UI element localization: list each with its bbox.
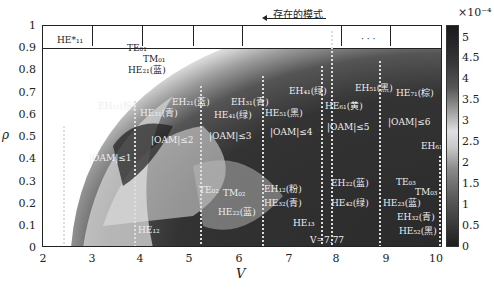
y-tick: 0.6 [10,109,36,120]
mode-label-he71: HE₇₁(棕) [396,88,434,98]
x-tick: 4 [130,252,150,265]
mode-label-te02: TE₀₂ [199,185,219,195]
y-tick: 0.1 [10,220,36,231]
colorbar-tick: 3.5 [462,94,480,105]
grid-line [242,26,243,46]
ellipsis: · · · [361,34,375,44]
mode-label-eh51: EH₅₁(黑) [355,83,393,93]
mode-label-eh32: EH₃₂(青) [397,212,435,222]
colorbar-tick: 0.5 [462,220,480,231]
mode-label-he22: HE₂₂(蓝) [218,207,256,217]
cutoff-line [331,31,333,246]
mode-label-te01: TE₀₁ [127,43,147,53]
cutoff-line [200,86,202,246]
oam-label-2: |OAM|≤2 [151,135,193,145]
mode-label-eh61: EH₆₁ [421,141,442,151]
arrow-icon [266,18,326,19]
y-tick: 0.3 [10,176,36,187]
y-axis-label: ρ [2,128,9,142]
oam-label-4: |OAM|≤4 [270,127,312,137]
mode-label-he31: HE₃₁(青) [140,108,178,118]
mode-label-he41: HE₄₁(绿) [214,110,252,120]
mode-label-he61: HE₆₁(黄) [325,101,363,111]
mode-label-te03: TE₀₃ [396,177,416,187]
mode-label-tm02: TM₀₂ [223,188,245,198]
grid-line [390,26,391,46]
x-tick: 8 [326,252,346,265]
heatmap-plot: HE*₁₁ TE₀₁ TM₀₁ HE₂₁(蓝) EH₁₁(粉) HE₃₁(青) … [42,25,442,247]
y-tick: 1 [10,20,36,31]
cutoff-line [63,126,65,246]
cutoff-line [134,101,136,246]
colorbar-tick: 3 [462,115,469,126]
cutoff-line [439,156,441,246]
x-tick: 10 [426,252,446,265]
colorbar-tick: 4.5 [462,52,480,63]
y-tick: 0.9 [10,42,36,53]
colorbar-tick: 4 [462,73,469,84]
mode-label-he52: HE₅₂(黑) [399,226,437,236]
colorbar-tick: 0 [462,241,469,252]
oam-label-1: |OAM|≤1 [89,153,131,163]
x-tick: 2 [33,252,53,265]
mode-label-he12: HE₁₂ [138,225,160,235]
mode-label-tm01: TM₀₁ [143,54,165,64]
grid-line [193,26,194,46]
v-marker-label: V=7.77 [310,235,344,245]
colorbar-tick: 1 [462,199,469,210]
x-tick: 5 [179,252,199,265]
mode-label-eh12: EH₁₂(粉) [264,184,302,194]
mode-label-he42: HE₄₂(绿) [331,198,369,208]
x-tick: 9 [376,252,396,265]
grid-line [92,26,93,46]
y-tick: 0.5 [10,131,36,142]
colorbar-exponent: ×10⁻⁴ [458,6,491,19]
y-tick: 0.7 [10,87,36,98]
mode-label-eh11: EH₁₁(粉) [98,101,136,111]
y-tick: 0.2 [10,198,36,209]
x-tick: 6 [229,252,249,265]
mode-label-eh41: EH₄₁(绿) [289,86,327,96]
x-tick: 3 [82,252,102,265]
colorbar-tick: 1.5 [462,178,480,189]
mode-label-he13: HE₁₃ [293,218,315,228]
oam-label-6: |OAM|≤6 [388,117,430,127]
mode-label-he32: HE₃₂(青) [264,198,302,208]
colorbar-tick: 5 [462,32,469,43]
x-axis-label: V [236,266,245,281]
mode-label-he23: HE₂₃(蓝) [383,198,421,208]
colorbar-tick: 2.5 [462,136,480,147]
oam-label-5: |OAM|≤5 [327,122,369,132]
y-tick: 0.4 [10,153,36,164]
mode-label-eh21: EH₂₁(蓝) [172,97,210,107]
oam-label-3: |OAM|≤3 [209,131,251,141]
mode-label-eh22: EH₂₂(蓝) [331,178,369,188]
colorbar-tick: 2 [462,157,469,168]
mode-label-eh31: EH₃₁(青) [231,97,269,107]
grid-line [341,26,342,46]
x-tick: 7 [279,252,299,265]
mode-label-he21: HE₂₁(蓝) [128,65,166,75]
mode-label-he11: HE*₁₁ [57,35,83,45]
colorbar [446,25,459,247]
y-tick: 0.8 [10,64,36,75]
mode-label-he51: HE₅₁(黑) [265,108,303,118]
grid-line [43,48,442,49]
mode-label-tm03: TM₀₃ [415,187,437,197]
